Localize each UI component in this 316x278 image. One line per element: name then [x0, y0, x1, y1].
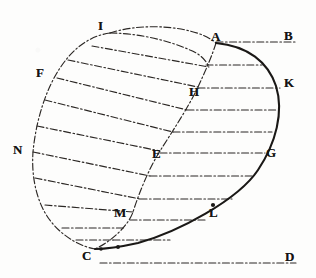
point-label-a: A	[211, 30, 220, 43]
point-label-l: L	[209, 206, 218, 219]
top-construction-arc	[110, 27, 216, 43]
point-label-g: G	[266, 146, 276, 159]
geometric-figure: ABIKFHNEGMLCD	[0, 0, 316, 278]
point-label-h: H	[189, 85, 199, 98]
point-label-b: B	[284, 29, 293, 42]
point-tick-2	[99, 247, 103, 251]
top-inner-construction-arc	[110, 33, 209, 67]
oblique-ruling-2	[57, 78, 187, 110]
point-label-m: M	[114, 206, 126, 219]
oblique-ruling-6	[35, 178, 140, 199]
oblique-ruling-4	[37, 126, 160, 151]
point-label-e: E	[152, 147, 161, 160]
outer-construction-arc	[33, 33, 110, 249]
point-tick-1	[116, 245, 120, 249]
oblique-ruling-3	[45, 100, 173, 132]
point-label-k: K	[284, 76, 294, 89]
point-label-n: N	[13, 143, 22, 156]
oblique-ruling-1	[68, 60, 198, 87]
figure-canvas	[0, 0, 316, 278]
point-label-f: F	[36, 66, 44, 79]
oblique-ruling-5	[33, 152, 150, 176]
point-label-i: I	[98, 19, 103, 32]
point-label-d: D	[285, 250, 294, 263]
oblique-ruling-0	[92, 46, 209, 67]
point-label-c: C	[82, 249, 91, 262]
